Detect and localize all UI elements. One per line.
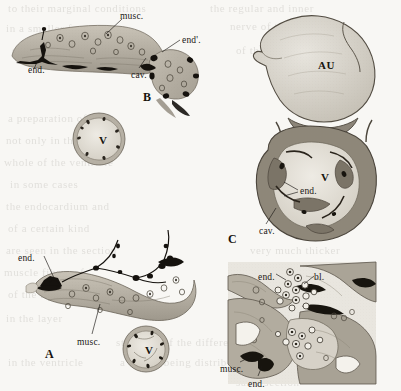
figure-c-illustration <box>253 16 376 241</box>
label-cav-c: cav. <box>259 226 275 236</box>
label-end-b: end. <box>28 65 45 75</box>
label-end-d: end. <box>248 379 265 389</box>
figure-d-illustration <box>228 262 376 384</box>
label-end-d: end. <box>258 272 275 282</box>
label-musc-b: musc. <box>120 11 143 21</box>
label-musc-a: musc. <box>77 337 100 347</box>
figures-illustration-layer <box>0 0 401 391</box>
label-end-c: end. <box>300 186 317 196</box>
figure-a-illustration <box>26 230 196 334</box>
figure-letter-b: B <box>143 90 151 105</box>
label-cav-b: cav. <box>131 70 147 80</box>
label-auricle-c: AU <box>318 59 335 71</box>
label-ventricle-a-inset: V <box>145 344 153 356</box>
label-bl-d: bl. <box>314 272 324 282</box>
label-end-a: end. <box>18 253 35 263</box>
histology-plate: to their marginal conditionsthe regular … <box>0 0 401 391</box>
label-end-prime-b: end'. <box>182 35 201 45</box>
figure-letter-c: C <box>228 232 237 247</box>
label-ventricle-b-inset: V <box>99 134 107 146</box>
label-musc-d: musc. <box>220 364 243 374</box>
figure-letter-a: A <box>45 347 54 362</box>
label-ventricle-c: V <box>321 171 329 183</box>
